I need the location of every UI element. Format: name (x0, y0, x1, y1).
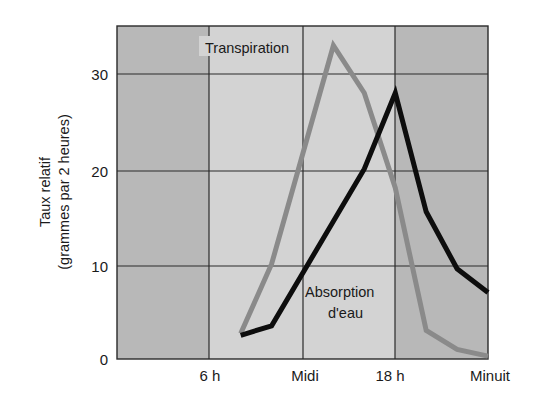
y-axis-label-line1: Taux relatif (37, 156, 53, 227)
absorption-label-line1: Absorption (305, 284, 374, 300)
y-axis-label-line2: (grammes par 2 heures) (56, 114, 72, 270)
x-tick-18h: 18 h (375, 367, 404, 384)
night-band-right (395, 26, 488, 359)
night-band-left (117, 26, 209, 359)
transpiration-label: Transpiration (205, 40, 289, 56)
y-tick-20: 20 (91, 163, 108, 180)
absorption-label-line2: d'eau (328, 305, 363, 321)
x-tick-minuit: Minuit (470, 367, 511, 384)
y-tick-30: 30 (91, 66, 108, 83)
y-tick-10: 10 (91, 258, 108, 275)
x-tick-midi: Midi (291, 367, 319, 384)
y-tick-0: 0 (100, 351, 108, 368)
day-band (209, 26, 395, 359)
x-tick-6h: 6 h (200, 367, 221, 384)
chart: Transpiration Absorption d'eau 30 20 10 … (0, 0, 534, 401)
